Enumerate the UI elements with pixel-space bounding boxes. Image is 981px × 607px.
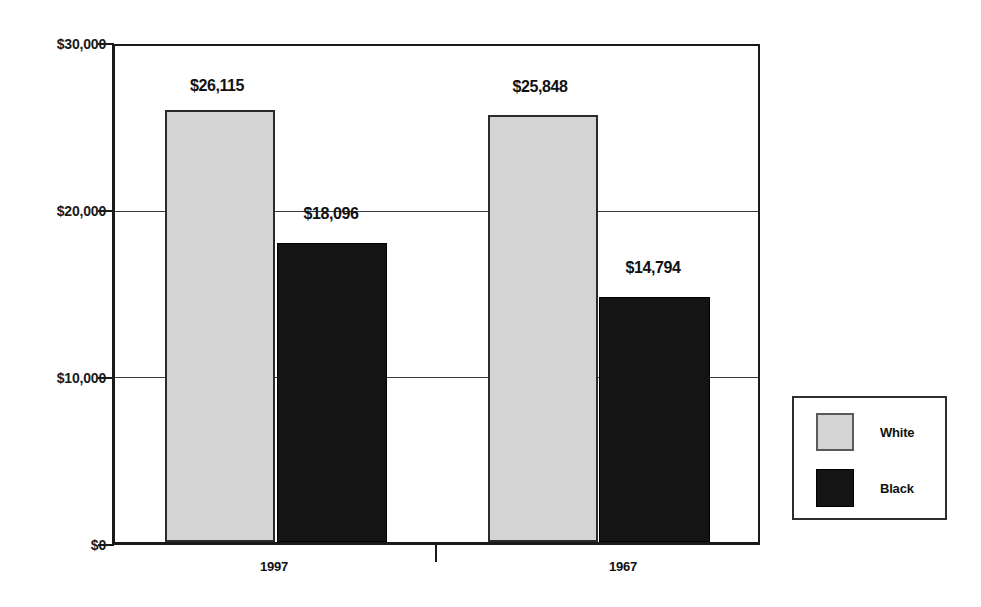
bar-value-label-black-1967: $14,794 <box>625 259 680 277</box>
bar-value-label-white-1997: $26,115 <box>190 77 244 95</box>
x-axis-tick-mark <box>435 545 437 562</box>
bar-white-1967 <box>488 115 598 542</box>
bar-value-label-white-1967: $25,848 <box>512 78 567 96</box>
x-axis-category-label-1997: 1997 <box>260 559 288 574</box>
chart-legend: White Black <box>792 396 947 520</box>
bar-white-1997 <box>165 110 275 542</box>
bar-black-1997 <box>277 243 387 542</box>
legend-swatch-white <box>816 413 854 451</box>
bar-chart: $30,000 $20,000 $10,000 $0 $26,115 $18,0… <box>0 0 981 607</box>
legend-item-white: White <box>794 408 945 456</box>
legend-label-black: Black <box>880 481 914 496</box>
x-axis-category-label-1967: 1967 <box>609 559 637 574</box>
bar-value-label-black-1997: $18,096 <box>303 205 358 223</box>
legend-label-white: White <box>880 425 914 440</box>
bar-black-1967 <box>599 297 710 542</box>
plot-area <box>112 44 760 545</box>
legend-item-black: Black <box>794 464 945 512</box>
legend-swatch-black <box>816 469 854 507</box>
